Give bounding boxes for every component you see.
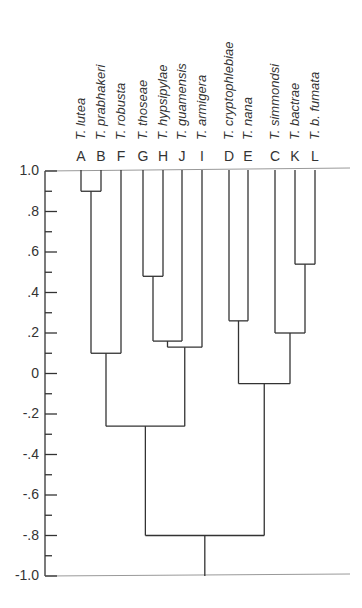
bottom-baseline [45,574,350,576]
y-tick-label: -.4 [3,446,39,462]
y-tick-label: .8 [3,203,39,219]
leaf-code: G [133,148,153,164]
leaf-code: A [71,148,91,164]
leaf-code: B [91,148,111,164]
dendrogram-chart: 1.0.8.6.4.20-.2-.4-.6-.8-1.0AT. luteaBT.… [0,0,362,608]
species-label: T. simmondsi [267,64,282,140]
y-tick-label: .4 [3,284,39,300]
y-tick-label: 0 [3,365,39,381]
y-tick-label: .6 [3,243,39,259]
leaf-code: F [111,148,131,164]
y-tick-label: -1.0 [3,567,39,583]
species-label: T. nana [240,97,255,140]
leaf-code: L [305,148,325,164]
species-label: T. robusta [113,83,128,140]
leaf-code: E [238,148,258,164]
y-tick-label: -.2 [3,405,39,421]
species-label: T. armigera [194,75,209,140]
y-tick-label: .2 [3,324,39,340]
species-label: T. hypsipylae [155,65,170,140]
species-label: T. lutea [73,98,88,140]
leaf-code: H [153,148,173,164]
species-label: T. b. fumata [307,72,322,140]
species-label: T. prabhakeri [93,65,108,140]
y-tick-label: 1.0 [3,162,39,178]
leaf-code: I [192,148,212,164]
leaf-code: K [285,148,305,164]
leaf-code: J [172,148,192,164]
species-label: T. guamensis [174,63,189,140]
y-tick-label: -.6 [3,486,39,502]
species-label: T. cryptophlebiae [221,41,236,140]
leaf-code: D [219,148,239,164]
species-label: T. bactrae [287,83,302,140]
y-tick-label: -.8 [3,527,39,543]
top-baseline [45,168,350,171]
species-label: T. thoseae [135,80,150,140]
leaf-code: C [265,148,285,164]
